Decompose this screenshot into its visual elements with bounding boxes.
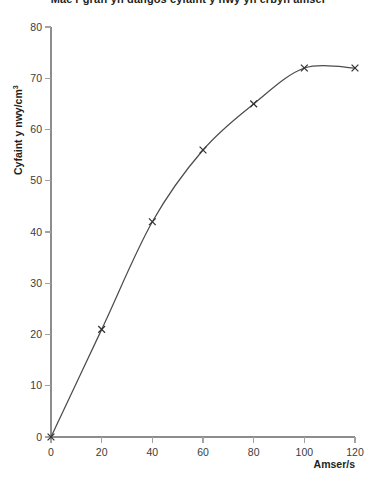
data-point-marker bbox=[149, 218, 156, 225]
x-tick-label: 100 bbox=[296, 446, 314, 458]
data-point-markers bbox=[48, 65, 359, 441]
data-series-curve bbox=[51, 65, 355, 437]
x-tick-label: 120 bbox=[346, 446, 364, 458]
x-tick-label: 40 bbox=[146, 446, 158, 458]
x-axis-ticks: 020406080100120 bbox=[48, 437, 364, 458]
data-point-marker bbox=[200, 147, 207, 154]
x-axis-title: Amser/s bbox=[314, 458, 356, 470]
data-point-marker bbox=[98, 326, 105, 333]
y-tick-label: 0 bbox=[36, 431, 42, 443]
y-axis-title-text: Cyfaint y nwy/cm bbox=[12, 89, 24, 175]
y-tick-label: 20 bbox=[30, 328, 42, 340]
axes bbox=[51, 27, 355, 437]
y-tick-label: 50 bbox=[30, 174, 42, 186]
y-tick-label: 60 bbox=[30, 123, 42, 135]
data-point-marker bbox=[301, 65, 308, 72]
y-tick-label: 70 bbox=[30, 72, 42, 84]
plot-area: 01020304050607080 020406080100120 Cyfain… bbox=[0, 0, 377, 482]
gas-volume-line-chart: Mae'r graff yn dangos cyfaint y nwy yn e… bbox=[0, 0, 377, 482]
y-axis-title: Cyfaint y nwy/cm3 bbox=[11, 85, 24, 175]
y-tick-label: 80 bbox=[30, 21, 42, 33]
y-tick-label: 30 bbox=[30, 277, 42, 289]
x-tick-label: 80 bbox=[248, 446, 260, 458]
y-axis-title-superscript: 3 bbox=[11, 85, 20, 89]
y-tick-label: 10 bbox=[30, 379, 42, 391]
x-tick-label: 0 bbox=[48, 446, 54, 458]
y-tick-label: 40 bbox=[30, 226, 42, 238]
x-tick-label: 60 bbox=[197, 446, 209, 458]
x-tick-label: 20 bbox=[96, 446, 108, 458]
y-axis-ticks: 01020304050607080 bbox=[30, 21, 51, 443]
data-point-marker bbox=[250, 100, 257, 107]
